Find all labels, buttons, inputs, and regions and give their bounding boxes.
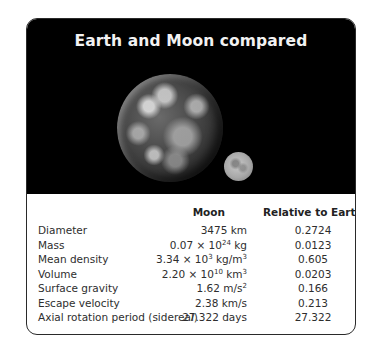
comparison-card: Earth and Moon compared Moon Relative to… bbox=[26, 18, 356, 335]
relative-value: 0.2724 bbox=[257, 223, 356, 237]
moon-value: 3.34 × 103 kg/m3 bbox=[156, 252, 247, 266]
row-label: Surface gravity bbox=[38, 281, 118, 295]
row-label: Volume bbox=[38, 267, 77, 281]
row-label: Mass bbox=[38, 238, 64, 252]
table-row: Escape velocity 2.38 km/s 0.213 bbox=[27, 296, 355, 310]
table-row: Volume 2.20 × 1010 km3 0.0203 bbox=[27, 267, 355, 281]
relative-value: 0.213 bbox=[257, 296, 356, 310]
figure-title: Earth and Moon compared bbox=[27, 32, 355, 50]
table-row: Surface gravity 1.62 m/s2 0.166 bbox=[27, 281, 355, 295]
moon-value: 3475 km bbox=[201, 223, 247, 237]
relative-value: 27.322 bbox=[257, 310, 356, 324]
table-row: Diameter 3475 km 0.2724 bbox=[27, 223, 355, 237]
moon-value: 27.322 days bbox=[182, 310, 247, 324]
column-header-relative: Relative to Earth bbox=[257, 205, 356, 219]
relative-value: 0.166 bbox=[257, 281, 356, 295]
moon-value: 2.38 km/s bbox=[195, 296, 247, 310]
table-row: Mass 0.07 × 1024 kg 0.0123 bbox=[27, 238, 355, 252]
row-label: Escape velocity bbox=[38, 296, 120, 310]
relative-value: 0.0203 bbox=[257, 267, 356, 281]
row-label: Mean density bbox=[38, 252, 108, 266]
table-row: Axial rotation period (sidereal) 27.322 … bbox=[27, 310, 355, 324]
moon-image bbox=[224, 152, 253, 181]
row-label: Diameter bbox=[38, 223, 87, 237]
earth-image bbox=[117, 74, 223, 182]
relative-value: 0.0123 bbox=[257, 238, 356, 252]
moon-value: 1.62 m/s2 bbox=[197, 281, 247, 295]
row-label: Axial rotation period (sidereal) bbox=[38, 310, 198, 324]
moon-value: 2.20 × 1010 km3 bbox=[162, 267, 247, 281]
table-row: Mean density 3.34 × 103 kg/m3 0.605 bbox=[27, 252, 355, 266]
column-header-moon: Moon bbox=[193, 205, 225, 219]
hero-image-panel: Earth and Moon compared bbox=[27, 19, 355, 194]
table-header-row: Moon Relative to Earth bbox=[27, 205, 355, 219]
relative-value: 0.605 bbox=[257, 252, 356, 266]
moon-value: 0.07 × 1024 kg bbox=[170, 238, 247, 252]
